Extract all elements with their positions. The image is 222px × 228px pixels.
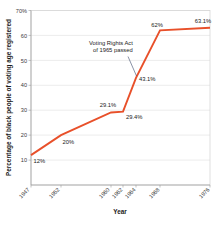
annotation-line-1: Voting Rights Act <box>89 40 133 46</box>
y-tick-label-30: 30 <box>21 107 27 113</box>
chart-container: 70% 60 50 40 30 20 10 1947 1952 1960 196… <box>0 0 222 228</box>
y-tick-label-70: 70% <box>16 8 27 14</box>
data-label-1976: 63.1% <box>195 18 211 24</box>
x-axis-title: Year <box>113 208 127 215</box>
data-label-1947: 12% <box>34 158 46 164</box>
line-chart: 70% 60 50 40 30 20 10 1947 1952 1960 196… <box>0 0 222 228</box>
annotation-line-2: of 1965 passed <box>93 47 133 53</box>
plot-area-frame <box>31 11 210 186</box>
y-tick-label-10: 10 <box>21 157 27 163</box>
y-tick-label-40: 40 <box>21 82 27 88</box>
data-label-1960: 29.1% <box>100 102 116 108</box>
data-label-1952: 20% <box>63 139 75 145</box>
data-label-1968: 62% <box>151 22 163 28</box>
y-tick-label-50: 50 <box>21 58 27 64</box>
y-tick-label-60: 60 <box>21 33 27 39</box>
y-tick-label-20: 20 <box>21 132 27 138</box>
y-axis-title: Percentage of black people of voting age… <box>5 19 13 176</box>
data-label-1964: 43.1% <box>139 76 155 82</box>
data-label-1962: 29.4% <box>126 114 142 120</box>
